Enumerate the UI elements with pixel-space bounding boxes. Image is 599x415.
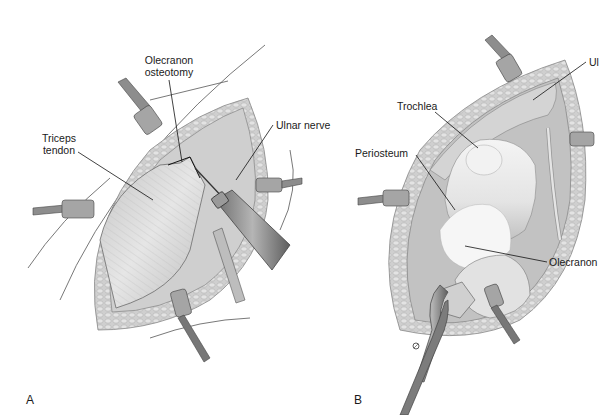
label-ulnar-nerve-b: Ul bbox=[589, 56, 599, 68]
panel-b-artwork bbox=[358, 35, 594, 415]
panel-letter-b: B bbox=[354, 393, 362, 407]
label-olecranon-osteotomy: Olecranon osteotomy bbox=[140, 54, 198, 78]
label-olecranon: Olecranon bbox=[549, 256, 597, 268]
label-trochlea: Trochlea bbox=[397, 100, 437, 112]
retractor-left bbox=[33, 200, 94, 218]
label-periosteum: Periosteum bbox=[355, 147, 408, 159]
surgical-illustration: Olecranon osteotomy Triceps tendon Ulnar… bbox=[0, 0, 599, 415]
retractor-right bbox=[256, 178, 302, 192]
panel-a-artwork bbox=[28, 45, 302, 362]
retractor-b-left bbox=[358, 190, 409, 206]
label-triceps-tendon: Triceps tendon bbox=[38, 132, 80, 156]
panel-letter-a: A bbox=[26, 393, 34, 407]
retractor-b-right bbox=[570, 132, 594, 146]
retractor-top bbox=[118, 78, 163, 136]
illustration-artwork bbox=[0, 0, 599, 415]
label-ulnar-nerve-a: Ulnar nerve bbox=[276, 119, 330, 131]
retractor-b-top bbox=[485, 35, 523, 83]
